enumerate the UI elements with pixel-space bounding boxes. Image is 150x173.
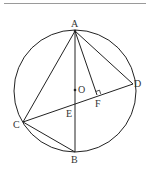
label-f: F — [95, 98, 101, 109]
label-o: O — [78, 84, 85, 95]
label-e: E — [66, 108, 72, 119]
segment-cb — [23, 122, 75, 152]
label-a: A — [71, 18, 79, 29]
label-b: B — [71, 154, 78, 165]
label-c: C — [13, 119, 20, 130]
point-o-dot — [74, 89, 77, 92]
geometry-diagram: A B C D O E F — [0, 0, 150, 173]
point-a-dot — [74, 30, 77, 33]
label-d: D — [134, 78, 141, 89]
